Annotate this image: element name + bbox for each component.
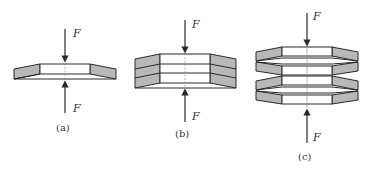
force-label-bottom: F (312, 131, 321, 144)
disc-spring-diagram: F F (a) F F (b) (0, 0, 369, 172)
force-label-bottom: F (191, 110, 200, 123)
caption-b: (b) (175, 128, 189, 139)
force-label-top: F (191, 18, 200, 31)
caption-a: (a) (56, 122, 70, 133)
force-label-bottom: F (72, 102, 81, 115)
force-label-top: F (312, 10, 321, 23)
panel-c: F F (c) (256, 10, 358, 162)
panel-a: F F (a) (14, 27, 116, 133)
disc-spring-stack-parallel (135, 54, 236, 88)
force-label-top: F (72, 27, 81, 40)
panel-b: F F (b) (135, 18, 236, 139)
caption-c: (c) (298, 151, 312, 162)
